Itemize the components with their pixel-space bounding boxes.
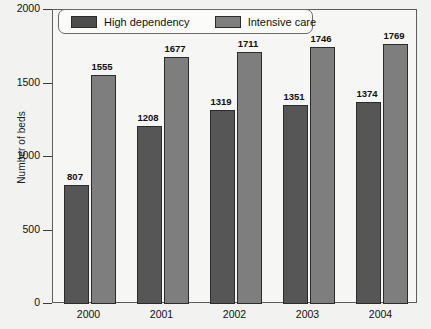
legend-item-high-dependency: High dependency [71, 16, 190, 28]
bar-2001-high-dependency [137, 126, 162, 304]
bar-2003-high-dependency [283, 105, 308, 304]
bar-2000-intensive-care [91, 75, 116, 304]
x-axis-tick-label: 2003 [296, 308, 319, 320]
bar-value-label: 1677 [164, 43, 185, 54]
chart-legend: High dependency Intensive care [58, 9, 313, 34]
bar-value-label: 1711 [238, 38, 259, 49]
legend-item-intensive-care: Intensive care [215, 16, 316, 28]
y-axis-tick [43, 156, 52, 157]
bar-2001-intensive-care [164, 57, 189, 304]
y-axis-tick-label: 500 [2, 223, 40, 235]
legend-label-high-dependency: High dependency [104, 16, 190, 28]
y-axis-title: Number of beds [16, 83, 27, 213]
bar-value-label: 1769 [383, 30, 404, 41]
bar-value-label: 1555 [91, 61, 112, 72]
bar-2004-high-dependency [356, 102, 381, 304]
x-axis-tick-label: 2004 [369, 308, 392, 320]
x-axis-tick-label: 2000 [77, 308, 100, 320]
y-axis-tick [43, 230, 52, 231]
y-axis-tick [43, 83, 52, 84]
legend-swatch-icon-intensive-care [215, 16, 241, 28]
y-axis-tick-label: 1500 [2, 76, 40, 88]
legend-swatch-icon-high-dependency [71, 16, 97, 28]
plot-area [52, 9, 417, 303]
bar-value-label: 1208 [137, 112, 158, 123]
bar-2003-intensive-care [310, 47, 335, 304]
bar-2004-intensive-care [383, 44, 408, 304]
bar-2002-high-dependency [210, 110, 235, 304]
y-axis-tick [43, 303, 52, 304]
bar-value-label: 1351 [283, 91, 304, 102]
bar-value-label: 807 [67, 171, 83, 182]
y-axis-tick-label: 1000 [2, 149, 40, 161]
bar-2002-intensive-care [237, 52, 262, 304]
bar-value-label: 1319 [210, 96, 231, 107]
legend-label-intensive-care: Intensive care [248, 16, 316, 28]
bar-chart-figure: Number of beds 2000150010005000 80715551… [0, 0, 431, 329]
y-axis-tick-label: 2000 [2, 2, 40, 14]
y-axis-tick [43, 9, 52, 10]
x-axis-tick-label: 2001 [150, 308, 173, 320]
x-axis-tick-label: 2002 [223, 308, 246, 320]
bar-value-label: 1374 [356, 88, 377, 99]
bar-value-label: 1746 [310, 33, 331, 44]
y-axis-tick-label: 0 [2, 296, 40, 308]
bar-2000-high-dependency [64, 185, 89, 304]
